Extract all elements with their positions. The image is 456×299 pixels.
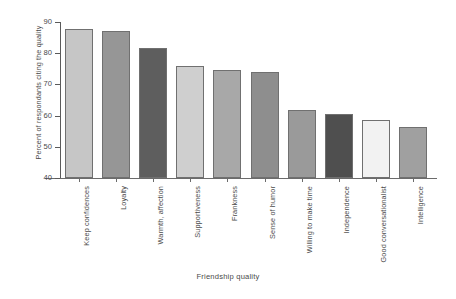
x-tick-mark <box>339 178 340 182</box>
x-tick-mark <box>265 178 266 182</box>
bar <box>362 120 390 178</box>
x-tick-label: Intelligence <box>416 186 425 224</box>
y-tick-mark <box>55 178 60 179</box>
x-tick-mark <box>376 178 377 182</box>
x-axis-title: Friendship quality <box>0 272 456 281</box>
bar <box>176 66 204 178</box>
x-tick-mark <box>302 178 303 182</box>
bar <box>399 127 427 178</box>
bar <box>102 31 130 178</box>
x-tick-label: Sense of humor <box>268 186 277 239</box>
bar-chart-figure: Percent of respondants citing the qualit… <box>0 0 456 299</box>
bar <box>251 72 279 178</box>
x-tick-label: Loyalty <box>119 186 128 210</box>
y-tick-label: 50 <box>44 142 52 151</box>
x-tick-label: Willing to make time <box>305 186 314 253</box>
bar <box>213 70 241 178</box>
x-tick-mark <box>190 178 191 182</box>
x-tick-label: Warmth, affection <box>156 186 165 244</box>
x-tick-label: Supportiveness <box>193 186 202 238</box>
x-tick-mark <box>153 178 154 182</box>
bar <box>288 110 316 178</box>
y-tick-label: 60 <box>44 111 52 120</box>
x-tick-mark <box>116 178 117 182</box>
y-axis-title: Percent of respondants citing the qualit… <box>34 3 43 183</box>
bar <box>325 114 353 178</box>
x-tick-label: Keep confidences <box>82 186 91 246</box>
x-tick-label: Independence <box>342 186 351 233</box>
y-tick-label: 80 <box>44 48 52 57</box>
x-tick-mark <box>79 178 80 182</box>
y-tick-label: 70 <box>44 79 52 88</box>
x-tick-label: Frankness <box>230 186 239 221</box>
y-tick-label: 90 <box>44 17 52 26</box>
bars-layer <box>60 22 432 178</box>
x-tick-label: Good conversationalist <box>379 186 388 262</box>
bar <box>65 29 93 178</box>
y-tick-label: 40 <box>44 173 52 182</box>
bar <box>139 48 167 178</box>
x-tick-mark <box>227 178 228 182</box>
x-tick-mark <box>413 178 414 182</box>
